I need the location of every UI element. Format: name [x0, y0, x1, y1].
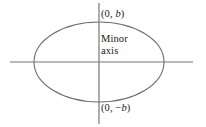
ellipse-minor-axis-figure: (0, b) Minor axis (0, −b) — [0, 0, 206, 127]
vertex-bottom-open: (0, − — [101, 102, 121, 113]
minor-axis-label: Minor axis — [101, 33, 128, 57]
vertex-top-close: ) — [121, 8, 125, 19]
minor-axis-label-line1: Minor — [101, 33, 128, 44]
vertex-top-open: (0, — [101, 8, 115, 19]
vertex-bottom-close: ) — [127, 102, 131, 113]
vertex-label-bottom: (0, −b) — [101, 102, 130, 114]
minor-axis-label-line2: axis — [101, 45, 128, 57]
vertex-label-top: (0, b) — [101, 8, 124, 20]
